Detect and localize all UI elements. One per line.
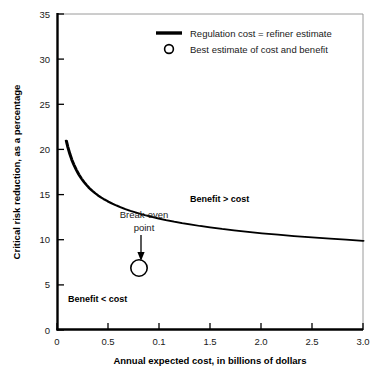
legend-label-point: Best estimate of cost and benefit: [190, 44, 328, 55]
y-axis-title: Critical risk reduction, as a percentage: [11, 85, 22, 260]
y-tick-label: 15: [39, 189, 50, 200]
chart-figure: 0 5 10 15 20 25 30 35 0 0.5 0.1 1.5 2.0 …: [0, 0, 381, 376]
x-tick-label: 2.5: [305, 336, 318, 347]
break-even-label-line1: Break-even: [120, 209, 169, 220]
break-even-label-line2: point: [134, 222, 155, 233]
x-tick-label: 0.1: [152, 336, 165, 347]
x-tick-label: 3.0: [356, 336, 369, 347]
x-tick-label: 0.5: [101, 336, 114, 347]
x-tick-label: 2.0: [254, 336, 267, 347]
y-tick-label: 30: [39, 54, 50, 65]
y-tick-label: 35: [39, 9, 50, 20]
x-axis-title: Annual expected cost, in billions of dol…: [113, 355, 306, 366]
legend-circle-marker: [165, 45, 174, 54]
x-tick-label: 1.5: [203, 336, 216, 347]
best-estimate-marker: [131, 260, 147, 276]
y-tick-label: 5: [45, 279, 50, 290]
x-tick-label: 0: [54, 336, 59, 347]
benefit-greater-label: Benefit > cost: [190, 194, 249, 204]
y-tick-label: 10: [39, 234, 50, 245]
y-tick-label: 25: [39, 99, 50, 110]
legend-label-curve: Regulation cost = refiner estimate: [190, 28, 332, 39]
benefit-less-label: Benefit < cost: [68, 294, 127, 304]
y-tick-label: 20: [39, 144, 50, 155]
chart-canvas: 0 5 10 15 20 25 30 35 0 0.5 0.1 1.5 2.0 …: [0, 0, 381, 376]
y-tick-label: 0: [45, 325, 50, 336]
